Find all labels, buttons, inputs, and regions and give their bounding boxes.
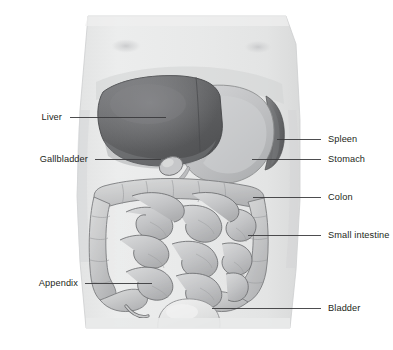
label-small-intestine: Small intestine — [328, 230, 390, 240]
label-liver: Liver — [41, 112, 62, 122]
label-gallbladder: Gallbladder — [40, 154, 88, 164]
label-colon: Colon — [328, 192, 353, 202]
label-spleen: Spleen — [328, 134, 357, 144]
label-bladder: Bladder — [328, 303, 361, 313]
anatomy-figure: Liver Gallbladder Appendix Spleen Stomac… — [0, 0, 393, 350]
nipple-left-icon — [111, 39, 141, 53]
nipple-right-icon — [244, 41, 272, 54]
labels-right: Spleen Stomach Colon Small intestine Bla… — [328, 134, 390, 313]
label-appendix: Appendix — [39, 278, 79, 288]
organ-small-intestine — [120, 192, 256, 308]
anatomy-illustration: Liver Gallbladder Appendix Spleen Stomac… — [0, 0, 393, 350]
label-stomach: Stomach — [328, 154, 365, 164]
organ-liver — [98, 76, 223, 169]
